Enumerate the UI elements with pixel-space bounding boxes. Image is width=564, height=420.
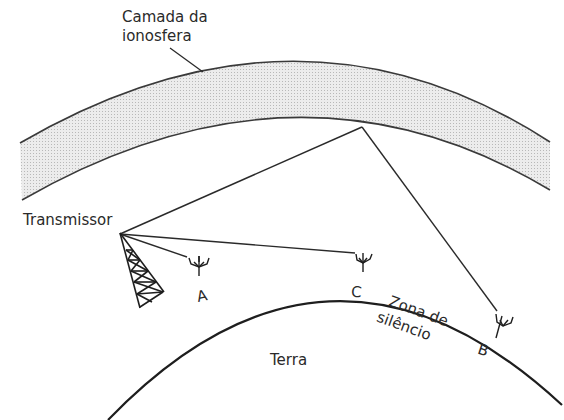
ionosphere-layer [20,61,550,200]
earth-surface [108,301,562,420]
receiver-c-antenna-icon [356,253,372,272]
transmitter-tower-icon [120,233,164,308]
receiver-b-antenna-icon [496,314,513,338]
ionosphere-leader-line [170,48,203,72]
earth-label: Terra [270,351,307,370]
receiver-c-label: C [350,283,362,303]
transmitter-label: Transmissor [23,211,112,230]
radio-rays [120,127,497,311]
receiver-a-antenna-icon [189,256,209,276]
ionosphere-label: Camada da ionosfera [122,8,208,46]
